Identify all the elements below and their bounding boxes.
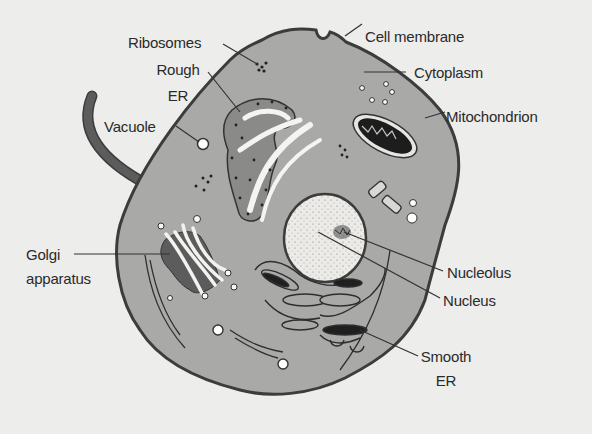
label-golgi-line2: apparatus xyxy=(26,270,91,287)
cell-diagram: Ribosomes Rough ER Vacuole Golgi apparat… xyxy=(0,0,592,434)
label-mitochondrion: Mitochondrion xyxy=(446,108,538,125)
leader-cell-membrane xyxy=(345,24,362,36)
label-rough-er-line2: ER xyxy=(148,87,208,104)
label-nucleus: Nucleus xyxy=(443,292,496,309)
cell-illustration xyxy=(0,0,592,434)
nucleus xyxy=(284,194,366,282)
label-cell-membrane: Cell membrane xyxy=(365,28,464,45)
label-vacuole: Vacuole xyxy=(104,118,156,135)
nucleolus xyxy=(333,225,351,239)
label-rough-er: Rough ER xyxy=(148,61,208,104)
label-ribosomes: Ribosomes xyxy=(128,34,201,51)
label-smooth-er: Smooth ER xyxy=(416,348,476,389)
label-rough-er-line1: Rough xyxy=(148,61,208,78)
vacuole xyxy=(198,139,209,150)
label-cytoplasm: Cytoplasm xyxy=(414,64,483,81)
label-smooth-er-line1: Smooth xyxy=(416,348,476,365)
label-smooth-er-line2: ER xyxy=(416,372,476,389)
label-nucleolus: Nucleolus xyxy=(447,264,511,281)
label-golgi-line1: Golgi xyxy=(26,246,60,263)
